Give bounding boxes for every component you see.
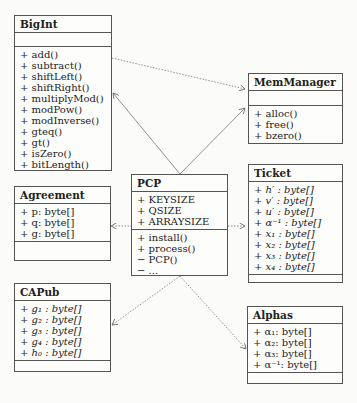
class-bigint: BigInt + add() + subtract() + shiftLeft(… [14, 15, 112, 171]
attribute: + h₀ : byte[] [20, 347, 105, 358]
class-alphas: Alphas + α₁: byte[] + α₂: byte[] + α₃: b… [247, 306, 343, 384]
attributes-section [249, 91, 342, 106]
method: + isZero() [20, 148, 106, 159]
attributes-section [15, 33, 111, 47]
class-capub: CAPub + g₁ : byte[] + g₂ : byte[] + g₃ :… [14, 283, 111, 372]
attribute: + p: byte[] [20, 206, 105, 217]
method: − PCP() [137, 254, 222, 265]
attribute: + q: byte[] [20, 217, 105, 228]
method: + modInverse() [20, 115, 106, 126]
methods-section [15, 242, 110, 256]
methods-section [249, 275, 342, 287]
class-title: Alphas [248, 307, 342, 324]
method: + bitLength() [20, 159, 106, 170]
method: + alloc() [254, 108, 337, 119]
method: + shiftRight() [20, 82, 106, 93]
attributes-section: + g₁ : byte[] + g₂ : byte[] + g₃ : byte[… [15, 301, 110, 361]
attribute: + KEYSIZE [137, 194, 222, 205]
class-memmanager: MemManager + alloc() + free() + bzero() [248, 73, 343, 144]
methods-section: + add() + subtract() + shiftLeft() + shi… [15, 47, 111, 172]
method: + bzero() [254, 130, 337, 141]
attribute: + g₂ : byte[] [20, 314, 105, 325]
method: + free() [254, 119, 337, 130]
class-title: Agreement [15, 187, 110, 204]
class-ticket: Ticket + h′ : byte[] + v′ : byte[] + u′ … [248, 164, 343, 283]
methods-section [15, 361, 110, 374]
attributes-section: + KEYSIZE + QSIZE + ARRAYSIZE [132, 192, 227, 230]
method: + shiftLeft() [20, 71, 106, 82]
attribute: + v′ : byte[] [254, 195, 337, 206]
attribute: + α⁻¹: byte[] [253, 359, 337, 370]
attributes-section: + α₁: byte[] + α₂: byte[] + α₃: byte[] +… [248, 324, 342, 373]
class-title: MemManager [249, 74, 342, 91]
attribute: + ARRAYSIZE [137, 216, 222, 227]
class-pcp: PCP + KEYSIZE + QSIZE + ARRAYSIZE + inst… [131, 174, 228, 276]
attribute: + g₃ : byte[] [20, 325, 105, 336]
method: + gt() [20, 137, 106, 148]
pcp-capub-arrow [112, 276, 180, 325]
method: + install() [137, 232, 222, 243]
attribute: + x₂ : byte[] [254, 239, 337, 250]
attribute: + α₂: byte[] [253, 337, 337, 348]
class-title: CAPub [15, 284, 110, 301]
attribute: + g: byte[] [20, 228, 105, 239]
attributes-section: + h′ : byte[] + v′ : byte[] + u′ : byte[… [249, 182, 342, 275]
pcp-alphas-arrow [180, 276, 246, 349]
method: + multiplyMod() [20, 93, 106, 104]
bigint-memmanager-arrow [112, 58, 245, 89]
attribute: + u′ : byte[] [254, 206, 337, 217]
attribute: + x₁ : byte[] [254, 228, 337, 239]
method: + modPow() [20, 104, 106, 115]
attribute: + x₃ : byte[] [254, 250, 337, 261]
method: − ... [137, 265, 222, 276]
pcp-bigint-arrow [113, 93, 180, 174]
methods-section: + install() + process() − PCP() − ... [132, 230, 227, 278]
attribute: + QSIZE [137, 205, 222, 216]
attribute: + α⁻¹ : byte[] [254, 217, 337, 228]
class-title: PCP [132, 175, 227, 192]
class-title: Ticket [249, 165, 342, 182]
attribute: + g₄ : byte[] [20, 336, 105, 347]
attribute: + α₁: byte[] [253, 326, 337, 337]
attribute: + α₃: byte[] [253, 348, 337, 359]
method: + gteq() [20, 126, 106, 137]
pcp-memmanager-arrow [180, 108, 245, 174]
class-title: BigInt [15, 16, 111, 33]
attribute: + x₄ : byte[] [254, 261, 337, 272]
attribute: + h′ : byte[] [254, 184, 337, 195]
class-agreement: Agreement + p: byte[] + q: byte[] + g: b… [14, 186, 111, 261]
method: + subtract() [20, 60, 106, 71]
method: + add() [20, 49, 106, 60]
attributes-section: + p: byte[] + q: byte[] + g: byte[] [15, 204, 110, 242]
methods-section [248, 373, 342, 386]
method: + process() [137, 243, 222, 254]
methods-section: + alloc() + free() + bzero() [249, 106, 342, 143]
attribute: + g₁ : byte[] [20, 303, 105, 314]
